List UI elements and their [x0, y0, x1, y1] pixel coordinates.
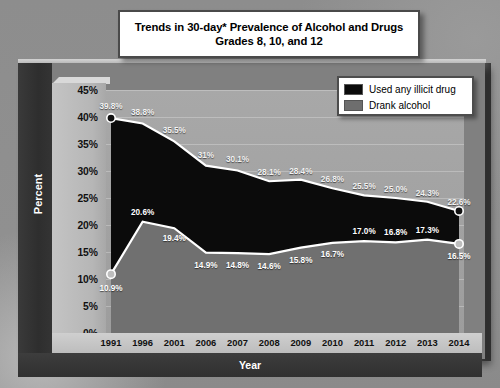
chart-title-box: Trends in 30-day* Prevalence of Alcohol …	[118, 10, 420, 58]
x-axis-tick: 2011	[354, 337, 374, 348]
y-axis-tick: 40%	[77, 112, 98, 123]
y-axis-tick: 15%	[77, 247, 98, 258]
x-axis-tick: 1991	[101, 337, 122, 348]
x-axis-tick: 2008	[259, 337, 280, 348]
data-label: 20.6%	[131, 207, 154, 216]
data-label: 19.4%	[163, 234, 186, 243]
x-axis-tick: 2001	[164, 337, 185, 348]
data-label: 24.3%	[416, 188, 439, 197]
x-axis-title: Year	[239, 359, 261, 371]
data-label: 15.8%	[289, 255, 312, 264]
data-label: 30.1%	[226, 155, 249, 164]
y-axis-tick: 25%	[77, 193, 98, 204]
legend-swatch-icon	[344, 84, 363, 95]
legend-swatch-icon	[344, 100, 363, 111]
chart-title-line-1: Trends in 30-day* Prevalence of Alcohol …	[135, 20, 403, 34]
y-axis-tick: 45%	[77, 85, 98, 96]
legend-item-label: Used any illicit drug	[369, 84, 456, 95]
data-label: 14.9%	[194, 260, 217, 269]
data-label: 25.5%	[352, 182, 375, 191]
x-axis-tick: 2007	[227, 337, 248, 348]
legend-item[interactable]: Used any illicit drug	[344, 81, 467, 97]
data-label: 14.6%	[258, 262, 281, 271]
x-axis-tick: 2006	[195, 337, 216, 348]
data-label: 39.8%	[99, 102, 122, 111]
y-axis-ticks: 45%40%35%30%25%20%15%10%5%0%	[52, 83, 104, 338]
data-label: 28.1%	[258, 168, 281, 177]
legend-item[interactable]: Drank alcohol	[344, 97, 467, 113]
x-axis-strip: 1991199620012006200720082009201020112012…	[52, 333, 482, 353]
x-axis-band: Year	[18, 353, 482, 377]
data-label: 16.5%	[447, 251, 470, 260]
chart-legend: Used any illicit drugDrank alcohol	[337, 76, 474, 116]
data-label: 16.7%	[321, 249, 344, 258]
x-axis-tick: 2012	[385, 337, 406, 348]
x-axis-tick: 2009	[290, 337, 311, 348]
y-axis-tick: 5%	[83, 301, 98, 312]
data-label: 26.8%	[321, 175, 344, 184]
data-label: 10.9%	[99, 284, 122, 293]
data-label: 35.5%	[163, 126, 186, 135]
data-label: 31%	[198, 150, 214, 159]
x-axis-tick: 2013	[417, 337, 438, 348]
y-axis-tick: 30%	[77, 166, 98, 177]
y-axis-tick: 20%	[77, 220, 98, 231]
data-label: 17.3%	[416, 225, 439, 234]
data-label: 38.8%	[131, 108, 154, 117]
data-label: 14.8%	[226, 261, 249, 270]
data-label: 22.6%	[447, 197, 470, 206]
data-label: 28.4%	[289, 166, 312, 175]
plot-area: 39.8%38.8%35.5%31%30.1%28.1%28.4%26.8%25…	[106, 90, 464, 333]
y-axis-title: Percent	[32, 139, 44, 249]
x-axis-tick: 2014	[449, 337, 470, 348]
y-axis-band: Percent	[18, 63, 52, 359]
data-label: 25.0%	[384, 185, 407, 194]
y-axis-tick: 35%	[77, 139, 98, 150]
chart-title-line-2: Grades 8, 10, and 12	[215, 34, 322, 48]
data-label: 16.8%	[384, 228, 407, 237]
area-series-svg	[106, 90, 464, 333]
y-axis-tick: 10%	[77, 274, 98, 285]
data-label: 17.0%	[352, 227, 375, 236]
x-axis-tick: 1996	[132, 337, 153, 348]
legend-item-label: Drank alcohol	[369, 100, 430, 111]
x-axis-tick: 2010	[322, 337, 343, 348]
